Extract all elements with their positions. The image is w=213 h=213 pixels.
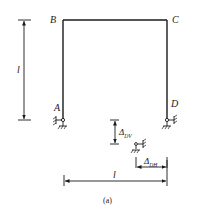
node-label-b: B — [50, 14, 56, 25]
height-dimension: l — [14, 20, 31, 120]
portal-frame — [63, 20, 167, 120]
figure-caption: (a) — [103, 196, 112, 205]
vertical-settlement-dimension: ΔDV — [110, 120, 132, 144]
node-label-c: C — [172, 14, 179, 25]
vertical-settlement-label: ΔDV — [118, 127, 132, 139]
displaced-support-d-icon — [131, 139, 146, 153]
support-d-icon — [162, 115, 177, 129]
height-label: l — [17, 64, 20, 75]
frame-diagram: B C A D — [0, 0, 213, 213]
span-label: l — [113, 169, 116, 180]
node-label-d: D — [170, 98, 179, 109]
support-a-icon — [53, 116, 67, 129]
horizontal-settlement-label: ΔDH — [143, 156, 158, 168]
node-label-a: A — [53, 102, 61, 113]
horizontal-settlement-dimension: ΔDH — [136, 156, 167, 168]
